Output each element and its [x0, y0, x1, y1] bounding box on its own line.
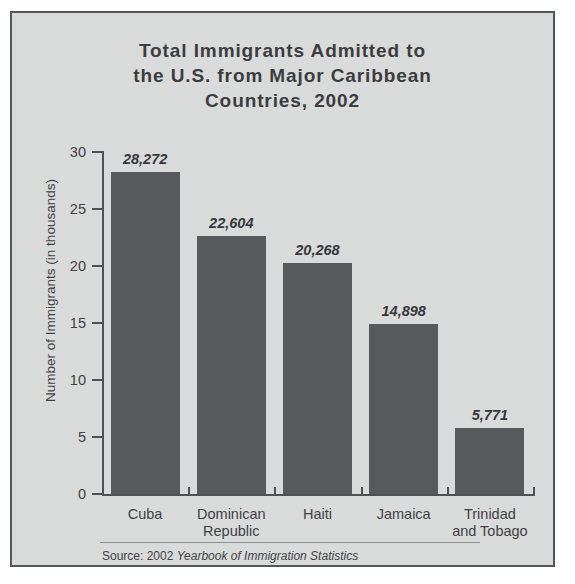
y-axis-tick-label: 30: [46, 145, 86, 160]
bar: [111, 172, 180, 494]
bar-value-label: 22,604: [188, 216, 274, 231]
y-axis-title: Number of Immigrants (in thousands): [43, 111, 58, 471]
bar-value-label: 5,771: [447, 408, 533, 423]
x-axis-line: [102, 494, 534, 496]
chart-figure: Total Immigrants Admitted to the U.S. fr…: [10, 11, 555, 567]
x-axis-category-label: Haiti: [274, 506, 360, 523]
bar-value-label: 20,268: [274, 243, 360, 258]
source-publication: Yearbook of Immigration Statistics: [177, 549, 358, 563]
bar: [197, 236, 266, 494]
y-axis-tick-label: 20: [46, 259, 86, 274]
y-axis-tick-label: 10: [46, 373, 86, 388]
source-note: Source: 2002 Yearbook of Immigration Sta…: [102, 549, 358, 563]
chart-title: Total Immigrants Admitted to the U.S. fr…: [12, 38, 553, 113]
bar: [283, 263, 352, 494]
bar-value-label: 14,898: [361, 304, 447, 319]
chart-title-line-3: Countries, 2002: [12, 88, 553, 113]
source-divider: [100, 542, 480, 543]
chart-title-line-2: the U.S. from Major Caribbean: [12, 63, 553, 88]
bar-value-label: 28,272: [102, 152, 188, 167]
y-axis-tick-label: 25: [46, 202, 86, 217]
x-axis-category-label: Trinidad and Tobago: [447, 506, 533, 540]
y-axis-tick-label: 15: [46, 316, 86, 331]
source-prefix: Source: 2002: [102, 549, 177, 563]
x-axis-category-label: Jamaica: [361, 506, 447, 523]
bar: [369, 324, 438, 494]
x-axis-category-label: Cuba: [102, 506, 188, 523]
bar: [455, 428, 524, 494]
chart-title-line-1: Total Immigrants Admitted to: [12, 38, 553, 63]
y-axis-tick-label: 0: [46, 487, 86, 502]
x-axis-category-label: Dominican Republic: [188, 506, 274, 540]
x-axis-tick: [533, 487, 535, 496]
plot-area: 28,27222,60420,26814,8985,771: [102, 152, 533, 494]
y-axis-tick-label: 5: [46, 430, 86, 445]
